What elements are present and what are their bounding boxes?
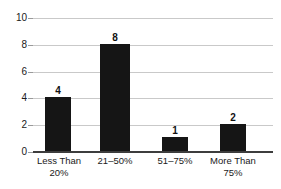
y-tick-label-8: 8 — [5, 40, 27, 50]
y-axis: 10 8 6 4 2 0 — [0, 0, 27, 189]
x-axis: Less Than 20% 21–50% 51–75% More Than 75… — [33, 155, 273, 189]
y-tick-label-4: 4 — [5, 93, 27, 103]
bar-value-more-than-75: 2 — [230, 112, 236, 123]
plot-area: 4 8 1 2 — [33, 18, 273, 152]
x-tick-label-less-than-20: Less Than 20% — [27, 155, 91, 179]
bar-slot-less-than-20[interactable]: 4 — [45, 18, 71, 151]
bar-value-51-75: 1 — [172, 125, 178, 136]
bar-slot-51-75[interactable]: 1 — [162, 18, 188, 151]
y-tick-label-0: 0 — [5, 147, 27, 157]
bar-slot-more-than-75[interactable]: 2 — [220, 18, 246, 151]
bar-rect-51-75 — [162, 137, 188, 151]
bar-value-21-50: 8 — [112, 32, 118, 43]
bar-slot-21-50[interactable]: 8 — [100, 18, 130, 151]
y-tick-label-6: 6 — [5, 67, 27, 77]
y-tick-label-10: 10 — [5, 13, 27, 23]
x-tick-label-more-than-75: More Than 75% — [201, 155, 265, 179]
bar-chart: 10 8 6 4 2 0 4 8 1 2 — [0, 0, 281, 189]
y-tick-label-2: 2 — [5, 120, 27, 130]
bar-rect-more-than-75 — [220, 124, 246, 151]
x-axis-baseline — [33, 151, 273, 153]
bar-rect-21-50 — [100, 44, 130, 151]
bar-rect-less-than-20 — [45, 97, 71, 151]
bar-value-less-than-20: 4 — [55, 85, 61, 96]
x-tick-label-21-50: 21–50% — [85, 155, 145, 167]
x-tick-label-51-75: 51–75% — [147, 155, 203, 167]
